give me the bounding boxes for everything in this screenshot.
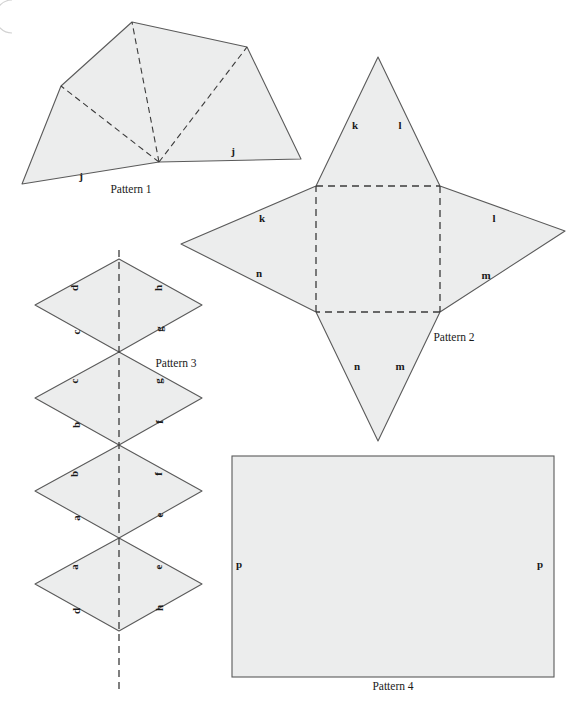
pattern-2-label-k-left: k bbox=[259, 212, 266, 224]
pattern-2-label-n-bottom: n bbox=[354, 360, 360, 372]
pattern-2-label-m-bottom: m bbox=[395, 360, 404, 372]
pattern-3-r2-label-g: g bbox=[152, 378, 164, 384]
pattern-3-r1-label-g: g bbox=[153, 326, 165, 332]
pattern-3-caption: Pattern 3 bbox=[155, 357, 196, 369]
pattern-3-r2-label-f: f bbox=[153, 420, 165, 424]
pattern-3-r1-label-d: d bbox=[68, 285, 80, 291]
pattern-1-caption: Pattern 1 bbox=[110, 183, 151, 195]
pattern-3-r2-label-b: b bbox=[70, 422, 82, 428]
pattern-4-label-p-right: p bbox=[537, 558, 543, 570]
pattern-3-r1-label-c: c bbox=[70, 329, 82, 334]
pattern-2-label-m-right: m bbox=[481, 269, 490, 281]
pattern-3-r1-label-h: h bbox=[152, 285, 164, 291]
pattern-2-label-k-top: k bbox=[352, 119, 359, 131]
pattern-2-label-n-left: n bbox=[256, 267, 262, 279]
pattern-1-group: j j Pattern 1 bbox=[22, 22, 301, 195]
pattern-3-r2-label-c: c bbox=[68, 378, 80, 383]
diagram-canvas: j j Pattern 1 k l k l n m n m Pattern 2 bbox=[0, 0, 571, 708]
pattern-2-label-l-top: l bbox=[398, 119, 401, 131]
pattern-4-group: p p Pattern 4 bbox=[232, 456, 554, 692]
pattern-3-r4-label-e: e bbox=[152, 564, 164, 569]
nets-diagram: j j Pattern 1 k l k l n m n m Pattern 2 bbox=[0, 0, 571, 708]
pattern-3-r4-label-d: d bbox=[70, 608, 82, 614]
pattern-4-caption: Pattern 4 bbox=[372, 680, 413, 692]
pattern-3-r3-label-b: b bbox=[68, 471, 80, 477]
pattern-3-r4-label-a: a bbox=[68, 564, 80, 570]
pattern-3-r3-label-a: a bbox=[70, 515, 82, 521]
page-corner-arc bbox=[0, 0, 12, 33]
pattern-4-label-p-left: p bbox=[236, 558, 242, 570]
pattern-3-r4-label-h: h bbox=[153, 605, 165, 611]
pattern-4-rectangle bbox=[232, 456, 554, 677]
pattern-3-r3-label-f: f bbox=[152, 472, 164, 476]
pattern-1-label-j-right: j bbox=[230, 145, 235, 157]
pattern-1-label-j-left: j bbox=[78, 170, 83, 182]
pattern-1-outline bbox=[22, 22, 301, 184]
pattern-3-r3-label-e: e bbox=[153, 512, 165, 517]
pattern-3-group: d h c g c g b f b f a e a e d h Pattern … bbox=[35, 250, 202, 692]
pattern-2-caption: Pattern 2 bbox=[433, 331, 474, 343]
pattern-2-label-l-right: l bbox=[492, 212, 495, 224]
